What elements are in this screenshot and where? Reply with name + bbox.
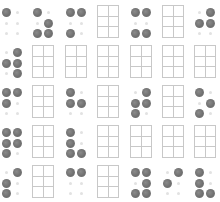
grid-line	[33, 106, 53, 107]
grid-box-icon	[97, 165, 119, 198]
grid-box-icon	[97, 85, 119, 118]
empty-grid-cell[interactable]	[98, 45, 122, 81]
braille-cell[interactable]	[33, 5, 57, 41]
empty-dot-icon	[16, 22, 19, 25]
grid-line	[98, 136, 118, 137]
empty-grid-cell[interactable]	[195, 45, 219, 81]
raised-dot-icon	[195, 179, 204, 188]
braille-cell[interactable]	[2, 85, 26, 121]
board-row	[0, 165, 220, 201]
raised-dot-icon	[33, 29, 42, 38]
raised-dot-icon	[142, 88, 151, 97]
braille-cell[interactable]	[131, 85, 155, 121]
braille-cell[interactable]	[2, 125, 26, 161]
raised-dot-icon	[66, 8, 75, 17]
braille-cell[interactable]	[195, 165, 219, 201]
raised-dot-icon	[195, 109, 204, 118]
board-row	[0, 85, 220, 121]
grid-line	[163, 26, 183, 27]
braille-cell[interactable]	[2, 5, 26, 41]
braille-cell[interactable]	[66, 85, 90, 121]
raised-dot-icon	[66, 99, 75, 108]
empty-dot-icon	[80, 192, 83, 195]
empty-dot-icon	[198, 102, 201, 105]
empty-dot-icon	[209, 32, 212, 35]
grid-line	[108, 166, 109, 197]
empty-dot-icon	[16, 182, 19, 185]
grid-line	[163, 106, 183, 107]
empty-grid-cell[interactable]	[131, 45, 155, 81]
empty-grid-cell[interactable]	[98, 165, 122, 201]
raised-dot-icon	[66, 139, 75, 148]
braille-cell[interactable]	[131, 5, 155, 41]
braille-cell[interactable]	[2, 45, 26, 81]
raised-dot-icon	[13, 48, 22, 57]
empty-dot-icon	[16, 112, 19, 115]
empty-grid-cell[interactable]	[66, 45, 90, 81]
grid-line	[98, 106, 118, 107]
braille-cell[interactable]	[66, 5, 90, 41]
empty-grid-cell[interactable]	[33, 125, 57, 161]
braille-cell[interactable]	[66, 165, 90, 201]
empty-dot-icon	[177, 192, 180, 195]
empty-grid-cell[interactable]	[195, 125, 219, 161]
grid-line	[33, 66, 53, 67]
empty-grid-cell[interactable]	[163, 85, 187, 121]
raised-dot-icon	[2, 139, 11, 148]
empty-grid-cell[interactable]	[131, 125, 155, 161]
raised-dot-icon	[13, 69, 22, 78]
empty-dot-icon	[16, 152, 19, 155]
grid-line	[163, 56, 183, 57]
empty-dot-icon	[209, 182, 212, 185]
board-row	[0, 125, 220, 161]
empty-grid-cell[interactable]	[163, 45, 187, 81]
grid-line	[43, 46, 44, 77]
grid-line	[195, 146, 215, 147]
empty-grid-cell[interactable]	[33, 85, 57, 121]
braille-cell[interactable]	[195, 5, 219, 41]
grid-line	[108, 46, 109, 77]
empty-dot-icon	[134, 182, 137, 185]
braille-cell[interactable]	[2, 165, 26, 201]
grid-box-icon	[97, 45, 119, 78]
braille-cell[interactable]	[66, 125, 90, 161]
empty-grid-cell[interactable]	[98, 125, 122, 161]
raised-dot-icon	[174, 168, 183, 177]
braille-cell[interactable]	[195, 85, 219, 121]
empty-grid-cell[interactable]	[163, 5, 187, 41]
grid-box-icon	[32, 125, 54, 158]
empty-dot-icon	[80, 131, 83, 134]
grid-box-icon	[32, 85, 54, 118]
raised-dot-icon	[2, 149, 11, 158]
grid-line	[131, 66, 151, 67]
grid-line	[205, 46, 206, 77]
empty-dot-icon	[5, 112, 8, 115]
empty-grid-cell[interactable]	[98, 5, 122, 41]
braille-cell[interactable]	[163, 165, 187, 201]
grid-line	[98, 26, 118, 27]
grid-line	[173, 46, 174, 77]
braille-cell[interactable]	[131, 165, 155, 201]
empty-dot-icon	[80, 91, 83, 94]
raised-dot-icon	[142, 99, 151, 108]
raised-dot-icon	[142, 8, 151, 17]
raised-dot-icon	[2, 59, 11, 68]
grid-line	[195, 66, 215, 67]
empty-dot-icon	[80, 142, 83, 145]
grid-line	[33, 146, 53, 147]
empty-dot-icon	[145, 22, 148, 25]
empty-grid-cell[interactable]	[33, 45, 57, 81]
grid-line	[205, 126, 206, 157]
raised-dot-icon	[66, 149, 75, 158]
grid-box-icon	[65, 45, 87, 78]
empty-dot-icon	[80, 112, 83, 115]
raised-dot-icon	[77, 149, 86, 158]
empty-grid-cell[interactable]	[163, 125, 187, 161]
empty-grid-cell[interactable]	[33, 165, 57, 201]
raised-dot-icon	[131, 99, 140, 108]
raised-dot-icon	[66, 88, 75, 97]
empty-dot-icon	[80, 32, 83, 35]
empty-grid-cell[interactable]	[98, 85, 122, 121]
empty-dot-icon	[69, 22, 72, 25]
grid-box-icon	[130, 45, 152, 78]
